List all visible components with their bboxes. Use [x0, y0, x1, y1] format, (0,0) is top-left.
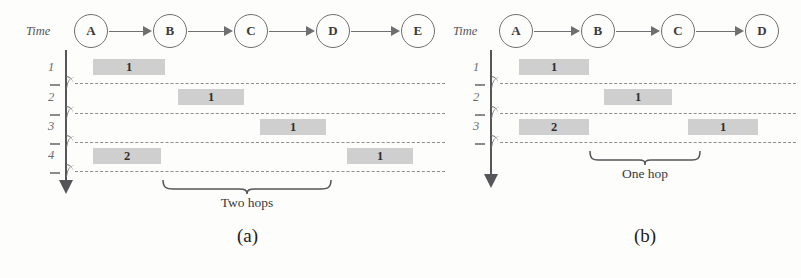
arrow-a-C-to-D — [269, 26, 315, 36]
tick-label-a-3: 3 — [48, 119, 54, 134]
time-axis-arrowhead-b — [484, 174, 498, 188]
brace-b — [588, 150, 702, 166]
node-label: A — [511, 23, 521, 39]
packet-value: 2 — [124, 149, 130, 164]
arrow-b-A-to-B — [534, 26, 580, 36]
node-label: C — [673, 23, 683, 39]
node-a-B: B — [153, 14, 187, 48]
node-label: B — [166, 23, 175, 39]
arrow-b-B-to-C — [616, 26, 660, 36]
node-b-C: C — [661, 14, 695, 48]
brace-label-a: Two hops — [161, 195, 333, 211]
panel-b: Time A B C D 1 2 3 1 1 2 1 — [445, 0, 801, 278]
packet-value: 1 — [720, 120, 726, 135]
packet-value: 1 — [208, 90, 214, 105]
tick-hook-b-1 — [491, 77, 501, 89]
arrow-a-B-to-C — [188, 26, 233, 36]
timeline-dash-b-1 — [500, 83, 796, 84]
packet-a-row3-C: 1 — [260, 119, 326, 135]
panel-a: Time A B C D E 1 2 3 4 1 1 — [0, 0, 445, 278]
node-a-E: E — [401, 14, 435, 48]
tick-label-b-2: 2 — [473, 90, 479, 105]
node-a-A: A — [74, 14, 108, 48]
timeline-dash-b-3 — [500, 142, 796, 143]
packet-a-row4-D: 1 — [347, 148, 413, 164]
arrow-a-D-to-E — [351, 26, 400, 36]
figure-container: Time A B C D E 1 2 3 4 1 1 — [0, 0, 801, 278]
node-a-C: C — [234, 14, 268, 48]
tick-hook-a-3 — [66, 136, 76, 148]
tick-label-a-2: 2 — [48, 90, 54, 105]
packet-value: 1 — [551, 60, 557, 75]
packet-a-row2-B: 1 — [178, 89, 244, 105]
node-label: A — [86, 23, 96, 39]
tick-label-b-1: 1 — [473, 60, 479, 75]
tick-label-b-3: 3 — [473, 119, 479, 134]
packet-b-row3-A: 2 — [519, 119, 589, 135]
packet-b-row2-B: 1 — [604, 89, 672, 105]
packet-b-row3-C: 1 — [688, 119, 758, 135]
timeline-dash-b-2 — [500, 113, 796, 114]
packet-value: 1 — [377, 149, 383, 164]
tick-label-a-4: 4 — [48, 148, 54, 163]
time-axis-label-b: Time — [453, 24, 477, 39]
tick-hook-a-1 — [66, 77, 76, 89]
node-b-A: A — [499, 14, 533, 48]
brace-a — [161, 179, 333, 195]
tick-label-a-1: 1 — [48, 60, 54, 75]
timeline-dash-a-4 — [75, 171, 445, 172]
packet-b-row1-A: 1 — [519, 59, 589, 75]
arrow-a-A-to-B — [109, 26, 152, 36]
tick-hook-a-4 — [66, 165, 76, 177]
node-label: B — [594, 23, 603, 39]
node-a-D: D — [316, 14, 350, 48]
packet-a-row1-A: 1 — [93, 59, 165, 75]
packet-value: 1 — [290, 120, 296, 135]
tick-hook-a-2 — [66, 107, 76, 119]
time-axis-arrowhead-a — [59, 180, 73, 194]
packet-value: 1 — [126, 60, 132, 75]
caption-a: (a) — [160, 225, 335, 247]
node-b-B: B — [581, 14, 615, 48]
node-label: E — [414, 23, 423, 39]
node-label: D — [328, 23, 338, 39]
node-label: D — [757, 23, 767, 39]
packet-value: 2 — [551, 120, 557, 135]
tick-hook-b-3 — [491, 136, 501, 148]
tick-hook-b-2 — [491, 107, 501, 119]
node-b-D: D — [745, 14, 779, 48]
time-axis-label-a: Time — [26, 24, 50, 39]
timeline-dash-a-2 — [75, 113, 445, 114]
packet-value: 1 — [635, 90, 641, 105]
timeline-dash-a-3 — [75, 142, 445, 143]
node-label: C — [246, 23, 256, 39]
caption-b: (b) — [588, 225, 702, 247]
timeline-dash-a-1 — [75, 83, 445, 84]
brace-label-b: One hop — [588, 166, 702, 182]
arrow-b-C-to-D — [696, 26, 744, 36]
packet-a-row4-A: 2 — [93, 148, 161, 164]
